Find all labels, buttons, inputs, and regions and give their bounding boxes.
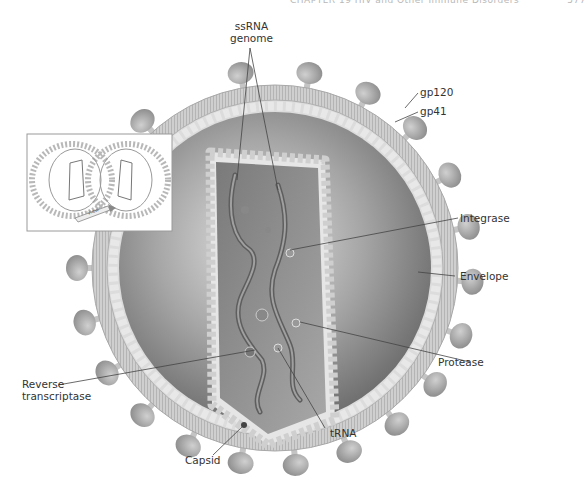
label-trna: tRNA: [330, 427, 356, 439]
label-gp41: gp41: [420, 105, 447, 117]
inset-diagram: View: [27, 134, 172, 231]
label-reverse-transcriptase: Reverse transcriptase: [22, 378, 91, 402]
capsid: [210, 152, 335, 445]
label-gp120: gp120: [420, 86, 453, 98]
label-envelope: Envelope: [460, 270, 508, 282]
label-ssrna-genome: ssRNA genome: [230, 20, 273, 44]
page-number: 577: [567, 0, 586, 5]
label-capsid: Capsid: [185, 454, 220, 466]
label-integrase: Integrase: [460, 212, 510, 224]
label-protease: Protease: [438, 356, 484, 368]
